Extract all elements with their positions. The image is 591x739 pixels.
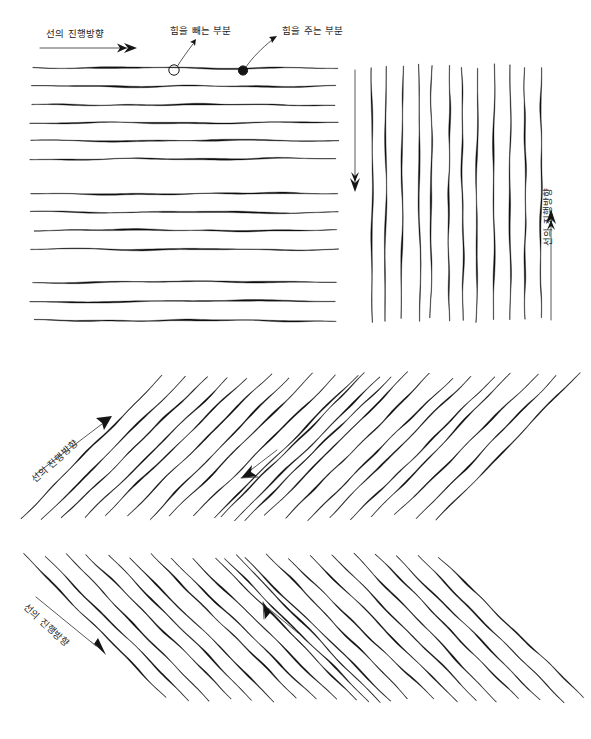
practice-stroke (396, 555, 540, 699)
practice-stroke (33, 281, 337, 284)
practice-stroke (41, 376, 186, 520)
practice-stroke (30, 211, 338, 214)
practice-stroke (32, 103, 335, 106)
practice-stroke (109, 555, 252, 700)
diagonal-down-line-group (23, 553, 583, 703)
practice-stroke (266, 554, 407, 699)
callout-circle-release (169, 65, 179, 75)
practice-stroke (418, 64, 421, 321)
practice-stroke (127, 374, 272, 516)
practice-stroke (461, 67, 465, 320)
practice-stroke (193, 558, 337, 699)
diagonal-up-line-group (21, 372, 581, 522)
practice-stroke (169, 373, 313, 516)
practice-stroke (401, 66, 404, 319)
practice-stroke (371, 68, 374, 323)
callout-release (169, 39, 196, 75)
practice-stroke (245, 557, 391, 701)
direction-arrow-up-left-small (263, 602, 298, 633)
drawing-sheet: 선의 진행방향 힘을 빼는 부분 힘을 주는 부분 선의 진행방향 선의 진행방… (0, 0, 591, 739)
practice-stroke (34, 319, 336, 322)
practice-stroke (214, 375, 358, 518)
ink-layer (0, 0, 591, 739)
practice-stroke (33, 67, 338, 70)
practice-stroke (264, 372, 408, 516)
practice-stroke (31, 192, 338, 195)
practice-stroke (85, 377, 227, 517)
practice-stroke (448, 65, 451, 321)
practice-stroke (418, 555, 564, 703)
practice-stroke (436, 372, 581, 520)
practice-stroke (31, 248, 339, 251)
practice-stroke (354, 553, 497, 702)
practice-stroke (30, 300, 336, 304)
practice-stroke (332, 555, 477, 701)
practice-stroke (215, 558, 356, 700)
practice-stroke (105, 378, 247, 516)
practice-stroke (540, 68, 543, 318)
practice-stroke (509, 65, 512, 320)
practice-stroke (394, 374, 539, 515)
practice-stroke (21, 375, 162, 519)
practice-stroke (30, 122, 339, 124)
practice-stroke (430, 65, 433, 318)
practice-stroke (350, 377, 495, 520)
horizontal-line-group (30, 67, 339, 322)
practice-stroke (476, 68, 479, 322)
practice-stroke (236, 555, 380, 703)
practice-stroke (375, 554, 519, 699)
practice-stroke (492, 64, 495, 320)
practice-stroke (31, 85, 335, 88)
practice-stroke (371, 373, 510, 517)
practice-stroke (245, 377, 392, 521)
practice-stroke (23, 553, 166, 697)
practice-stroke (130, 558, 274, 703)
practice-stroke (524, 68, 527, 320)
practice-stroke (31, 139, 339, 142)
direction-arrow-up-vertical (546, 209, 556, 320)
practice-stroke (416, 375, 556, 519)
practice-stroke (66, 553, 209, 701)
direction-arrow-down-vertical (350, 70, 360, 192)
practice-stroke (438, 557, 584, 698)
callout-circle-apply (238, 66, 247, 75)
practice-stroke (30, 157, 336, 160)
practice-stroke (234, 377, 380, 521)
practice-stroke (384, 66, 387, 321)
practice-stroke (286, 373, 430, 518)
practice-stroke (61, 377, 208, 518)
practice-stroke (34, 229, 337, 232)
vertical-line-group (371, 64, 543, 323)
practice-stroke (193, 375, 335, 516)
practice-stroke (45, 556, 189, 701)
direction-arrow-right (40, 43, 137, 53)
practice-stroke (151, 553, 297, 698)
practice-stroke (310, 555, 457, 702)
practice-stroke (330, 376, 471, 518)
